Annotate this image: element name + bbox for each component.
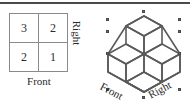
grid-cell-r0c1: 2 <box>39 14 68 43</box>
grid-cell-r1c1: 1 <box>39 43 68 72</box>
grid-cell-r1c0: 2 <box>10 43 39 72</box>
selection-handle-upper-right[interactable] <box>178 30 181 33</box>
selection-handle-top-right[interactable] <box>178 18 181 21</box>
plan-view-grid: 3 2 2 1 <box>9 13 68 72</box>
table-row: 2 1 <box>10 43 68 72</box>
worksheet-figure-page: 3 2 2 1 Front Right <box>0 0 190 105</box>
selection-handle-top-left[interactable] <box>106 18 109 21</box>
plan-view-figure: 3 2 2 1 Front Right <box>9 13 89 101</box>
isometric-view-figure[interactable]: Front Right <box>100 4 188 103</box>
plan-view-front-label: Front <box>9 75 69 87</box>
table-row: 3 2 <box>10 14 68 43</box>
selection-handle-middle-left[interactable] <box>106 52 109 55</box>
selection-handle-middle-right[interactable] <box>178 52 181 55</box>
selection-handle-bottom-center[interactable] <box>142 96 145 99</box>
grid-cell-r0c0: 3 <box>10 14 39 43</box>
plan-view-right-label: Right <box>71 13 83 53</box>
selection-handle-upper-left[interactable] <box>106 30 109 33</box>
selection-handle-top-center[interactable] <box>142 10 145 13</box>
selection-handle-bottom-right[interactable] <box>178 88 181 91</box>
